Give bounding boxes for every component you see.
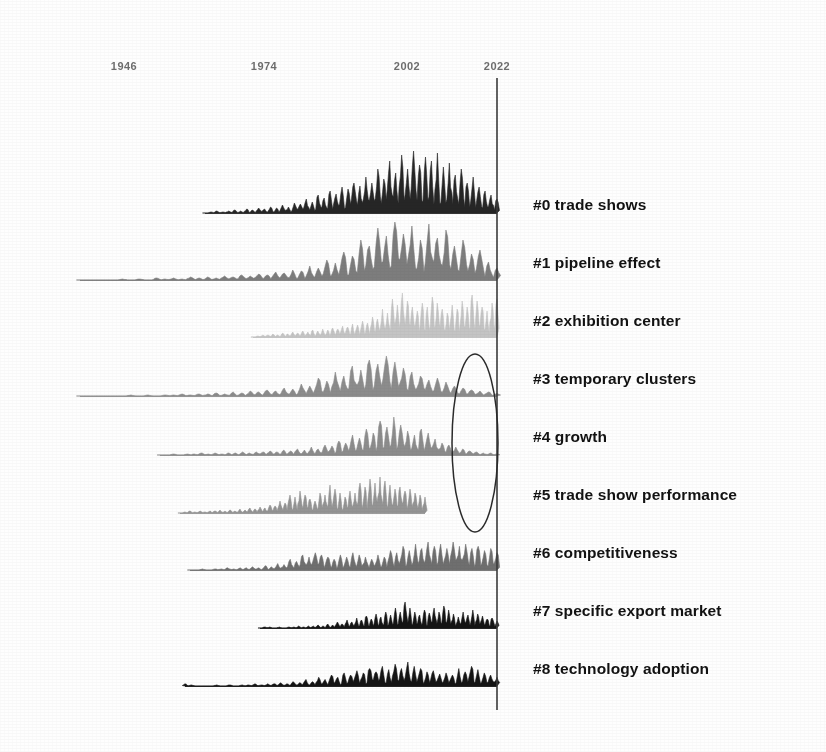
topic-label-8: #8 technology adoption bbox=[533, 660, 709, 678]
annotation-ellipse bbox=[452, 354, 498, 532]
ridge-area-2 bbox=[251, 293, 499, 337]
ridge-area-4 bbox=[157, 417, 500, 455]
topic-label-1: #1 pipeline effect bbox=[533, 254, 661, 272]
topic-label-3: #3 temporary clusters bbox=[533, 370, 696, 388]
topic-label-0: #0 trade shows bbox=[533, 196, 646, 214]
topic-label-5: #5 trade show performance bbox=[533, 486, 737, 504]
topic-label-2: #2 exhibition center bbox=[533, 312, 681, 330]
plot-area bbox=[0, 0, 826, 752]
topic-label-4: #4 growth bbox=[533, 428, 607, 446]
ridge-area-8 bbox=[182, 662, 499, 686]
ridge-area-3 bbox=[76, 356, 500, 396]
ridge-area-6 bbox=[187, 542, 499, 570]
topic-label-7: #7 specific export market bbox=[533, 602, 722, 620]
ridge-area-0 bbox=[203, 151, 500, 213]
ridge-area-7 bbox=[258, 602, 499, 628]
topic-label-6: #6 competitiveness bbox=[533, 544, 678, 562]
ridge-area-1 bbox=[76, 222, 500, 280]
ridge-area-5 bbox=[178, 477, 427, 513]
ridgeline-chart-figure: 1946 1974 2002 2022 #0 trade shows #1 pi… bbox=[0, 0, 826, 752]
